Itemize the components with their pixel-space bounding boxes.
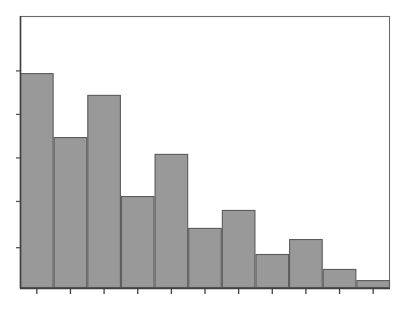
y-axis-ticks	[16, 71, 20, 248]
bar	[54, 138, 87, 288]
bar	[21, 74, 54, 288]
bar	[290, 240, 323, 288]
bar	[155, 154, 188, 287]
bar	[88, 95, 121, 287]
histogram-figure	[0, 0, 405, 309]
bar	[256, 255, 289, 288]
bar	[357, 281, 390, 288]
bar	[189, 228, 222, 287]
bar	[121, 197, 154, 288]
bar	[222, 210, 255, 287]
bar	[323, 269, 356, 287]
chart-canvas	[0, 0, 405, 309]
